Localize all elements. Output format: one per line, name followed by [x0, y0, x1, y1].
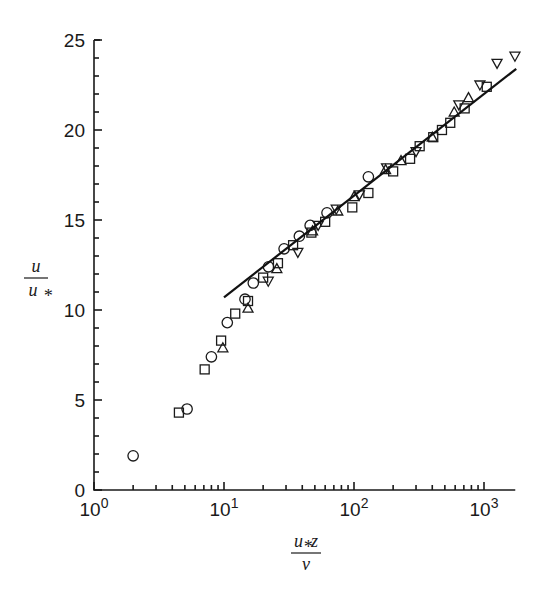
y-label-denominator-sub: *	[43, 286, 52, 306]
fit-line	[224, 69, 516, 298]
y-tick-label: 20	[64, 120, 85, 141]
square-marker	[200, 365, 209, 374]
circle-marker	[240, 294, 250, 304]
x-tick-label: 103	[470, 495, 499, 520]
y-label-denominator: u	[29, 280, 38, 300]
square-marker	[231, 309, 240, 318]
inverted-triangle-marker	[510, 52, 520, 61]
data-markers	[128, 52, 520, 461]
y-tick-label: 10	[64, 300, 85, 321]
x-tick-label: 101	[210, 495, 239, 520]
axes	[94, 40, 515, 490]
circle-marker	[248, 278, 258, 288]
x-label-denominator: ν	[302, 554, 310, 574]
x-label-u: u	[294, 531, 303, 551]
axis-lines	[94, 40, 515, 490]
square-marker	[217, 336, 226, 345]
triangle-marker	[464, 93, 474, 102]
y-tick-label: 15	[64, 210, 85, 231]
log-law-line	[224, 69, 516, 298]
x-label-z: z	[310, 531, 318, 551]
circle-marker	[222, 317, 232, 327]
x-axis-label: u * z ν	[291, 531, 321, 574]
circle-marker	[206, 352, 216, 362]
y-tick-label: 25	[64, 30, 85, 51]
y-tick-label: 0	[74, 480, 85, 501]
triangle-marker	[218, 343, 228, 352]
y-label-numerator: u	[32, 256, 41, 276]
circle-marker	[128, 451, 138, 461]
y-tick-label: 5	[74, 390, 85, 411]
y-axis-label: u u *	[24, 256, 52, 306]
square-marker	[364, 189, 373, 198]
x-tick-label: 100	[80, 495, 109, 520]
ticks: 0510152025100101102103	[64, 30, 499, 520]
x-tick-label: 102	[340, 495, 369, 520]
inverted-triangle-marker	[492, 59, 502, 68]
square-marker	[348, 203, 357, 212]
log-law-velocity-chart: 0510152025100101102103 u u * u * z ν	[0, 0, 549, 599]
